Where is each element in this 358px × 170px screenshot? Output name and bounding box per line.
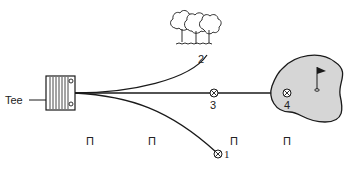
outcome-label-2: 2 — [198, 53, 204, 65]
trees-icon — [171, 10, 222, 44]
diagram-canvas: Tee 2 3 — [0, 0, 358, 170]
outcome-label-3: 3 — [210, 99, 216, 111]
distance-marker-4: Π — [283, 135, 291, 147]
distance-marker-3: Π — [230, 135, 238, 147]
tee-label: Tee — [5, 94, 23, 106]
target-marker-3-icon — [210, 89, 218, 97]
distance-marker-2: Π — [148, 135, 156, 147]
target-marker-4-icon — [283, 89, 291, 97]
shot-path-1 — [75, 93, 216, 152]
outcome-label-1: 1 — [224, 148, 230, 160]
green-shape — [271, 55, 343, 122]
tee-box-icon — [46, 76, 75, 110]
golf-diagram: Tee 2 3 — [0, 0, 358, 170]
target-marker-1-icon — [214, 150, 222, 158]
outcome-label-4: 4 — [284, 99, 290, 111]
shot-path-2 — [75, 55, 207, 93]
distance-marker-1: Π — [86, 135, 94, 147]
